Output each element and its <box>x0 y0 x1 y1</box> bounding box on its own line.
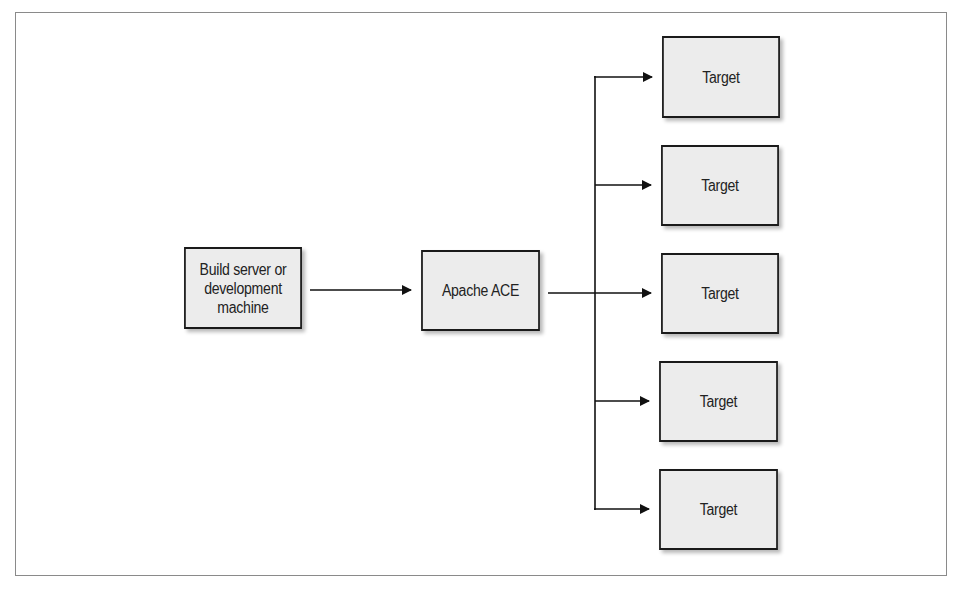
node-build-server: Build server or development machine <box>184 247 302 329</box>
node-apache-ace-label: Apache ACE <box>442 281 519 300</box>
node-target-3: Target <box>661 253 779 334</box>
node-target-2-label: Target <box>701 176 739 195</box>
node-target-5: Target <box>659 469 778 550</box>
node-build-server-label: Build server or development machine <box>200 260 287 317</box>
node-target-5-label: Target <box>700 500 738 519</box>
node-target-1-label: Target <box>702 68 740 87</box>
node-target-4-label: Target <box>700 392 738 411</box>
node-target-2: Target <box>661 145 779 226</box>
node-target-1: Target <box>662 36 780 118</box>
node-target-4: Target <box>659 361 778 442</box>
node-apache-ace: Apache ACE <box>421 250 540 331</box>
node-target-3-label: Target <box>701 284 739 303</box>
